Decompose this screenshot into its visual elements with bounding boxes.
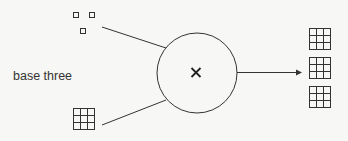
nine-grid-icon [74, 109, 95, 130]
input-line-top [102, 27, 166, 48]
three-nine-grids-icon [310, 29, 331, 108]
multiply-icon [192, 68, 201, 77]
input-line-bottom [102, 100, 166, 125]
multiplication-diagram [0, 0, 348, 141]
three-units-icon [74, 13, 95, 34]
arrow-head-icon [296, 70, 302, 76]
